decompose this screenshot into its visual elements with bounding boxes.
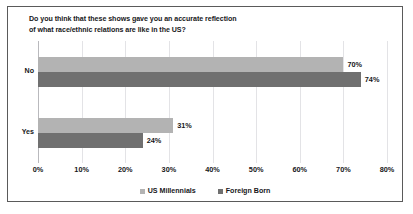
bar-no-us-millennials xyxy=(38,57,343,72)
x-tick-label-0: 0% xyxy=(33,165,44,174)
plot-area: 70%74%31%24% xyxy=(38,41,387,163)
bar-row: 31% xyxy=(38,118,387,133)
x-tick-label-60: 60% xyxy=(292,165,307,174)
category-label-no: No xyxy=(25,67,34,75)
chart-frame: Do you think that these shows gave you a… xyxy=(7,6,403,202)
x-tick-label-70: 70% xyxy=(336,165,351,174)
gridline-80 xyxy=(387,41,388,163)
legend-swatch-icon xyxy=(218,189,223,194)
plot-inner: 70%74%31%24% xyxy=(38,41,387,163)
bar-value-label: 70% xyxy=(347,60,362,69)
legend-item-foreign-born[interactable]: Foreign Born xyxy=(218,187,271,195)
chart-title: Do you think that these shows gave you a… xyxy=(29,14,349,36)
legend-swatch-icon xyxy=(140,189,145,194)
x-tick-label-10: 10% xyxy=(74,165,89,174)
value-axis: 0%10%20%30%40%50%60%70%80% xyxy=(38,165,387,177)
bar-no-foreign-born xyxy=(38,72,361,87)
bar-row: 74% xyxy=(38,72,387,87)
legend-label: Foreign Born xyxy=(226,187,271,195)
x-tick-label-80: 80% xyxy=(380,165,395,174)
bar-row: 24% xyxy=(38,133,387,148)
bar-row: 70% xyxy=(38,57,387,72)
chart-title-line-2: of what race/ethnic relations are like i… xyxy=(29,25,349,36)
category-label-yes: Yes xyxy=(22,128,34,136)
chart-title-line-1: Do you think that these shows gave you a… xyxy=(29,14,349,25)
bar-yes-foreign-born xyxy=(38,133,143,148)
bar-value-label: 24% xyxy=(147,136,162,145)
legend-item-us-millennials[interactable]: US Millennials xyxy=(140,187,196,195)
x-tick-label-30: 30% xyxy=(162,165,177,174)
category-axis: NoYes xyxy=(8,41,34,163)
legend-label: US Millennials xyxy=(148,187,196,195)
bar-value-label: 31% xyxy=(177,121,192,130)
chart-legend: US MillennialsForeign Born xyxy=(8,187,402,195)
bar-yes-us-millennials xyxy=(38,118,173,133)
x-tick-label-20: 20% xyxy=(118,165,133,174)
x-tick-label-50: 50% xyxy=(249,165,264,174)
bar-value-label: 74% xyxy=(365,75,380,84)
x-tick-label-40: 40% xyxy=(205,165,220,174)
